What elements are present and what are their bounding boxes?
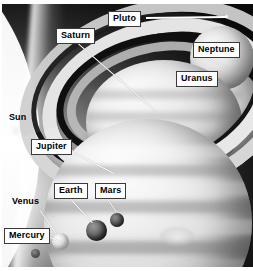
frame-top-edge bbox=[0, 0, 253, 4]
label-saturn: Saturn bbox=[56, 28, 95, 44]
frame-left-edge bbox=[0, 0, 2, 271]
label-sun: Sun bbox=[9, 113, 26, 122]
jupiter-great-red-spot bbox=[160, 227, 194, 246]
label-jupiter: Jupiter bbox=[31, 139, 72, 155]
label-mercury: Mercury bbox=[4, 228, 50, 244]
solar-system-image: PlutoNeptuneUranusSaturnSunJupiterEarthM… bbox=[0, 0, 253, 271]
label-mars: Mars bbox=[95, 183, 126, 199]
earth-body bbox=[86, 220, 107, 241]
mercury-body bbox=[31, 249, 40, 258]
label-neptune: Neptune bbox=[193, 42, 240, 58]
label-pluto: Pluto bbox=[108, 11, 141, 27]
mars-body bbox=[110, 213, 124, 227]
label-earth: Earth bbox=[54, 183, 88, 199]
label-venus: Venus bbox=[12, 197, 39, 206]
label-uranus: Uranus bbox=[176, 71, 218, 87]
